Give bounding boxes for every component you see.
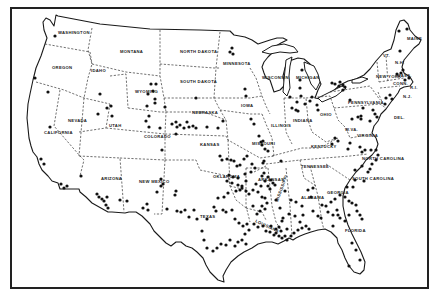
location-dot — [228, 238, 231, 241]
location-dot — [331, 224, 334, 227]
location-dot — [306, 188, 309, 191]
location-dot — [359, 114, 362, 117]
location-dot — [46, 90, 49, 93]
location-dot — [356, 115, 359, 118]
state-label-me: MAINE — [407, 36, 422, 41]
location-dot — [283, 189, 286, 192]
location-dot — [205, 125, 208, 128]
location-dot — [279, 159, 282, 162]
location-dot — [343, 85, 346, 88]
location-dot — [358, 213, 361, 216]
location-dot — [243, 232, 246, 235]
location-dot — [262, 171, 265, 174]
location-dot — [39, 157, 42, 160]
location-dot — [249, 117, 252, 120]
location-dot — [243, 87, 246, 90]
location-dot — [388, 93, 391, 96]
location-dot — [310, 95, 313, 98]
location-dot — [300, 226, 303, 229]
location-dot — [260, 204, 263, 207]
location-dot — [145, 104, 148, 107]
location-dot — [359, 117, 362, 120]
location-dot — [224, 210, 227, 213]
location-dot — [237, 221, 240, 224]
location-dot — [159, 184, 162, 187]
location-dot — [79, 174, 82, 177]
location-dot — [174, 132, 177, 135]
location-dot — [243, 172, 246, 175]
location-dot — [224, 243, 227, 246]
location-dot — [383, 102, 386, 105]
location-dot — [301, 213, 304, 216]
location-dot — [155, 190, 158, 193]
location-dot — [333, 136, 336, 139]
location-dot — [254, 182, 257, 185]
state-label-ga: GEORGIA — [327, 190, 349, 195]
location-dot — [300, 204, 303, 207]
location-dot — [373, 112, 376, 115]
location-dot — [253, 166, 256, 169]
location-dot — [255, 212, 258, 215]
location-dot — [316, 214, 319, 217]
location-dot — [191, 124, 194, 127]
location-dot — [244, 179, 247, 182]
location-dot — [333, 82, 336, 85]
location-dot — [263, 147, 266, 150]
location-dot — [407, 76, 410, 79]
location-dot — [106, 206, 109, 209]
state-label-co: COLORADO — [144, 134, 171, 139]
location-dot — [290, 106, 293, 109]
location-dot — [240, 238, 243, 241]
location-dot — [358, 258, 361, 261]
location-dot — [370, 162, 373, 165]
location-dot — [202, 238, 205, 241]
state-label-ut: UTAH — [109, 123, 122, 128]
location-dot — [221, 208, 224, 211]
state-label-ri: R.I. — [410, 85, 418, 90]
location-dot — [42, 162, 45, 165]
location-dot — [219, 242, 222, 245]
location-dot — [268, 230, 271, 233]
location-dot — [263, 196, 266, 199]
location-dot — [354, 203, 357, 206]
location-dot — [146, 208, 149, 211]
location-dot — [358, 145, 361, 148]
location-dot — [289, 198, 292, 201]
location-dot — [59, 182, 62, 185]
location-dot — [178, 123, 181, 126]
location-dot — [294, 200, 297, 203]
location-dot — [163, 105, 166, 108]
location-dot — [338, 193, 341, 196]
location-dot — [280, 219, 283, 222]
location-dot — [285, 238, 288, 241]
location-dot — [280, 236, 283, 239]
location-dot — [257, 134, 260, 137]
location-dot — [384, 96, 387, 99]
location-dot — [205, 246, 208, 249]
us-outline — [27, 15, 421, 282]
location-dot — [260, 174, 263, 177]
location-dot — [304, 224, 307, 227]
location-dot — [240, 186, 243, 189]
location-dot — [353, 168, 356, 171]
state-label-wi: WISCONSIN — [262, 75, 289, 80]
location-dot — [353, 178, 356, 181]
location-dot — [263, 207, 266, 210]
location-dot — [269, 178, 272, 181]
location-dot — [216, 196, 219, 199]
location-dot — [154, 82, 157, 85]
location-dot — [236, 240, 239, 243]
state-label-va: VIRGINIA — [357, 133, 378, 138]
location-dot — [261, 139, 264, 142]
location-dot — [220, 158, 223, 161]
location-dot — [53, 34, 56, 37]
location-dot — [374, 158, 377, 161]
location-dot — [187, 125, 190, 128]
location-dot — [355, 209, 358, 212]
location-dot — [331, 213, 334, 216]
location-dot — [104, 203, 107, 206]
location-dot — [102, 199, 105, 202]
location-dot — [147, 125, 150, 128]
location-dot — [333, 197, 336, 200]
location-dot — [288, 95, 291, 98]
